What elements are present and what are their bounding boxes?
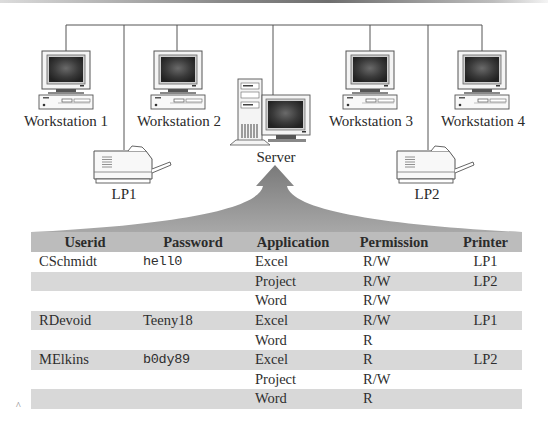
printer-lp1-label: LP1 bbox=[111, 186, 136, 203]
cell-application: Project bbox=[247, 272, 339, 292]
cell-printer: LP1 bbox=[449, 311, 522, 331]
cell-printer: LP2 bbox=[449, 272, 522, 292]
cell-application: Excel bbox=[247, 311, 339, 331]
cell-userid: CSchmidt bbox=[31, 252, 139, 272]
column-header-userid: Userid bbox=[31, 232, 139, 252]
cell-password bbox=[139, 291, 247, 311]
table-row: Word R bbox=[31, 389, 522, 409]
cell-userid bbox=[31, 370, 139, 390]
cell-userid bbox=[31, 389, 139, 409]
cell-application: Excel bbox=[247, 350, 339, 370]
cell-userid: RDevoid bbox=[31, 311, 139, 331]
workstation-1-label: Workstation 1 bbox=[24, 113, 108, 130]
table-row: Project R/W LP2 bbox=[31, 272, 522, 292]
cell-printer bbox=[449, 370, 522, 390]
cell-userid: MElkins bbox=[31, 350, 139, 370]
cell-permission: R bbox=[339, 350, 449, 370]
server-icon bbox=[230, 79, 310, 145]
table-header-row: Userid Password Application Permission P… bbox=[31, 232, 522, 252]
cell-application: Word bbox=[247, 330, 339, 350]
footnote-mark: ^ bbox=[16, 400, 21, 411]
cell-permission: R/W bbox=[339, 272, 449, 292]
workstation-4-icon bbox=[455, 51, 509, 109]
cell-printer bbox=[449, 389, 522, 409]
table-row: CSchmidt hell0 Excel R/W LP1 bbox=[31, 252, 522, 272]
cell-printer: LP1 bbox=[449, 252, 522, 272]
cell-permission: R bbox=[339, 389, 449, 409]
cell-application: Excel bbox=[247, 252, 339, 272]
column-header-application: Application bbox=[247, 232, 339, 252]
cell-password bbox=[139, 272, 247, 292]
workstation-3-icon bbox=[343, 51, 397, 109]
access-control-table: Userid Password Application Permission P… bbox=[31, 232, 522, 409]
workstation-3-label: Workstation 3 bbox=[329, 113, 413, 130]
table-row: Project R/W bbox=[31, 370, 522, 390]
cell-permission: R/W bbox=[339, 291, 449, 311]
printer-lp2-label: LP2 bbox=[414, 186, 439, 203]
workstation-1-icon bbox=[39, 51, 93, 109]
column-header-permission: Permission bbox=[339, 232, 449, 252]
column-header-printer: Printer bbox=[449, 232, 522, 252]
cell-permission: R/W bbox=[339, 252, 449, 272]
cell-userid bbox=[31, 291, 139, 311]
cell-permission: R/W bbox=[339, 370, 449, 390]
cell-password: hell0 bbox=[139, 252, 247, 272]
cell-application: Word bbox=[247, 389, 339, 409]
cell-password bbox=[139, 389, 247, 409]
cell-permission: R/W bbox=[339, 311, 449, 331]
column-header-password: Password bbox=[139, 232, 247, 252]
cell-password bbox=[139, 370, 247, 390]
workstation-4-label: Workstation 4 bbox=[441, 113, 525, 130]
cell-printer bbox=[449, 291, 522, 311]
cell-password bbox=[139, 330, 247, 350]
cell-userid bbox=[31, 330, 139, 350]
cell-printer: LP2 bbox=[449, 350, 522, 370]
printer-lp1-icon bbox=[94, 146, 171, 183]
cell-printer bbox=[449, 330, 522, 350]
cell-application: Project bbox=[247, 370, 339, 390]
table-row: Word R bbox=[31, 330, 522, 350]
cell-permission: R bbox=[339, 330, 449, 350]
workstation-2-icon bbox=[151, 51, 205, 109]
printer-lp2-icon bbox=[397, 146, 474, 183]
cell-application: Word bbox=[247, 291, 339, 311]
table-row: MElkins b0dy89 Excel R LP2 bbox=[31, 350, 522, 370]
workstation-2-label: Workstation 2 bbox=[137, 113, 221, 130]
table-row: Word R/W bbox=[31, 291, 522, 311]
cell-password: Teeny18 bbox=[139, 311, 247, 331]
cell-password: b0dy89 bbox=[139, 350, 247, 370]
cell-userid bbox=[31, 272, 139, 292]
server-label: Server bbox=[256, 149, 295, 166]
table-row: RDevoid Teeny18 Excel R/W LP1 bbox=[31, 311, 522, 331]
